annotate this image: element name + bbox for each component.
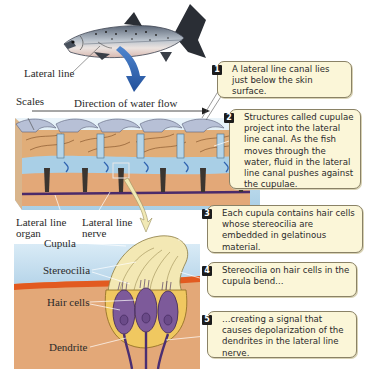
callout-2: 2 Structures called cupulae project into…: [229, 109, 361, 189]
scales-label: Scales: [16, 96, 44, 107]
lateral-line-nerve-label-2: nerve: [82, 228, 106, 239]
dendrite-label: Dendrite: [49, 342, 87, 353]
callout-4-text: Stereocilia on hair cells in the cupula …: [222, 265, 349, 286]
callout-3-text: Each cupula contains hair cells whose st…: [222, 208, 355, 252]
callout-1: 1 A lateral line canal lies just below t…: [217, 61, 352, 98]
callout-4: 4 Stereocilia on hair cells in the cupul…: [207, 262, 357, 297]
salmon-illustration: [64, 4, 206, 62]
direction-label: Direction of water flow: [74, 98, 178, 109]
hair-cells-label: Hair cells: [47, 297, 89, 308]
lateral-line-organ-label-2: organ: [16, 228, 41, 239]
callout-3: 3 Each cupula contains hair cells whose …: [207, 205, 363, 253]
cupula-label: Cupula: [44, 238, 76, 249]
callout-2-text: Structures called cupulae project into t…: [244, 112, 353, 189]
callout-5: 5 …creating a signal that causes depolar…: [207, 311, 357, 358]
step-badge-3: 3: [202, 209, 212, 219]
stereocilia-label: Stereocilia: [43, 265, 90, 276]
magnified-cupula: [14, 236, 200, 369]
step-badge-1: 1: [212, 65, 222, 75]
step-badge-4: 4: [202, 266, 212, 276]
step-badge-2: 2: [224, 113, 234, 123]
step-badge-5: 5: [202, 315, 212, 325]
callout-1-text: A lateral line canal lies just below the…: [232, 64, 329, 96]
lateral-line-label: Lateral line: [24, 68, 74, 79]
lateral-line-diagram: Lateral line Scales Direction of water f…: [0, 0, 374, 369]
callout-5-text: …creating a signal that causes depolariz…: [222, 314, 344, 358]
